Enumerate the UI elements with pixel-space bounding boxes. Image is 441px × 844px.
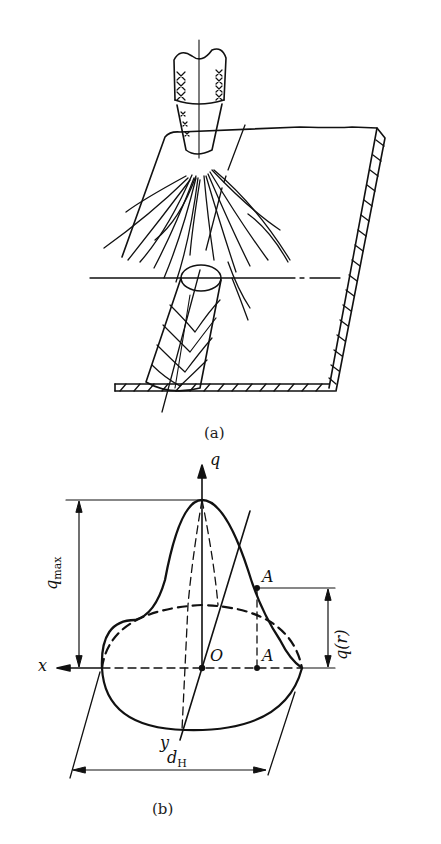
- label-d-H-main: d: [167, 748, 177, 767]
- label-d-H: dH: [167, 750, 187, 769]
- point-A-bottom: [254, 665, 260, 671]
- label-q-max-sub: max: [51, 557, 64, 580]
- heat-source-figure: (a) (b) q qmax A A O x y q(r) dH: [0, 0, 441, 844]
- point-A-top: [254, 585, 260, 591]
- label-q-max-main: q: [42, 580, 61, 590]
- label-point-A-top: A: [262, 569, 274, 585]
- origin-point: [199, 665, 205, 671]
- caption-b: (b): [152, 800, 173, 818]
- base-ellipse-front: [102, 668, 302, 730]
- label-q-r: q(r): [334, 630, 350, 660]
- label-x-axis: x: [38, 658, 47, 674]
- label-q-max: qmax: [44, 557, 63, 590]
- label-d-H-sub: H: [177, 757, 187, 770]
- label-origin: O: [210, 648, 223, 664]
- y-axis: [180, 511, 250, 740]
- weld-bead: [146, 265, 221, 391]
- label-point-A-bottom: A: [262, 648, 274, 664]
- label-q-axis: q: [210, 452, 220, 468]
- arc-lines: [104, 170, 290, 320]
- part-a-drawing: [0, 0, 441, 844]
- caption-a: (a): [204, 424, 225, 442]
- torch: [174, 40, 226, 158]
